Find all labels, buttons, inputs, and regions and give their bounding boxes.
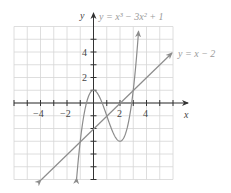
graph: x y −4 −2 2 4 4 2 y = x³ − 3x² + 1 y = x… <box>0 0 231 193</box>
tick-label-neg4: −4 <box>33 108 44 119</box>
tick-label-4y: 4 <box>82 47 87 58</box>
cubic-label: y = x³ − 3x² + 1 <box>98 11 164 22</box>
line-label: y = x − 2 <box>177 48 215 59</box>
tick-label-neg2: −2 <box>60 108 71 119</box>
tick-label-2y: 2 <box>82 72 87 83</box>
tick-label-4x: 4 <box>143 108 148 119</box>
y-axis-label: y <box>79 10 85 21</box>
x-axis-label: x <box>183 109 189 120</box>
tick-label-2x: 2 <box>117 108 122 119</box>
